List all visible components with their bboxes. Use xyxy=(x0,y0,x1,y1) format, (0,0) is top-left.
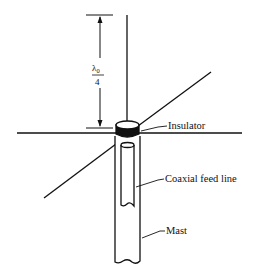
radial-diagonal-lower xyxy=(44,144,116,198)
mast-label: Mast xyxy=(166,225,187,236)
radial-diagonal-upper xyxy=(138,72,211,126)
coax-label: Coaxial feed line xyxy=(165,173,237,184)
insulator-label: Insulator xyxy=(168,120,206,131)
svg-text:λ0: λ0 xyxy=(92,63,100,74)
lambda-subscript: 0 xyxy=(96,67,99,74)
coax-tube xyxy=(121,145,134,206)
lambda-denominator: 4 xyxy=(95,77,100,87)
antenna-diagram: λ0 4 Insulator Coaxial feed line Mast xyxy=(0,0,254,277)
insulator xyxy=(116,121,139,137)
coax-top xyxy=(121,143,134,148)
dimension-label: λ0 4 xyxy=(92,63,104,87)
mast-leader xyxy=(142,231,165,238)
insulator-leader xyxy=(141,126,167,131)
